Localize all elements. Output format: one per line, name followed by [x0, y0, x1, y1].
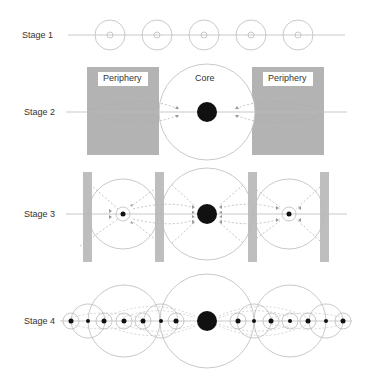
core-node	[197, 204, 217, 224]
stage-3-diagram	[66, 168, 347, 262]
stage-4-diagram	[60, 274, 352, 368]
periphery-left-label: Periphery	[103, 73, 142, 83]
core-label: Core	[195, 73, 215, 83]
stage-1-diagram	[68, 20, 345, 50]
core-node	[197, 311, 217, 331]
periphery-right-label: Periphery	[268, 73, 307, 83]
barrier-2	[155, 172, 164, 262]
diagram-canvas	[0, 0, 368, 389]
core-node	[197, 102, 217, 122]
barrier-4	[320, 172, 329, 262]
barrier-3	[248, 172, 257, 262]
barrier-1	[83, 172, 92, 262]
